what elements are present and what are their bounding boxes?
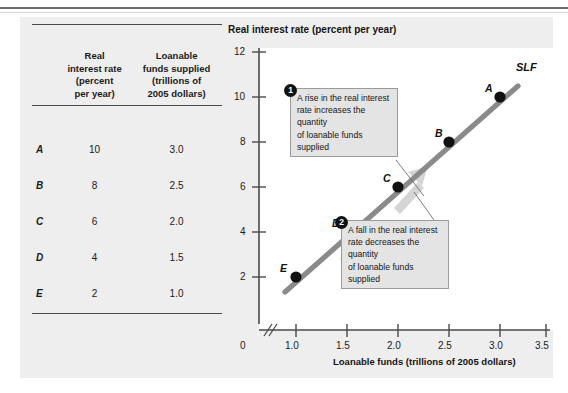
row-key: B <box>32 167 58 203</box>
row-rate: 2 <box>58 275 131 313</box>
annotation-2-line-1: A fall in the real interest <box>348 224 444 236</box>
table-row: A 10 3.0 <box>32 131 222 167</box>
table-header-real-interest-rate: Realinterest rate(percentper year) <box>58 50 131 106</box>
annotation-callout-1: A rise in the real interest rate increas… <box>290 88 398 157</box>
table-row: C 6 2.0 <box>32 203 222 239</box>
row-key: C <box>32 203 58 239</box>
x-tick-label-3-5: 3.5 <box>535 340 549 351</box>
x-tick-label-3-0: 3.0 <box>489 340 503 351</box>
y-tick-label-12: 12 <box>234 46 245 57</box>
row-funds: 1.5 <box>131 239 222 275</box>
row-rate: 4 <box>58 239 131 275</box>
y-tick-label-10: 10 <box>234 91 245 102</box>
chart-svg <box>228 24 553 374</box>
point-label-b: B <box>435 127 443 139</box>
data-point-b <box>443 136 454 147</box>
table-header-row: Realinterest rate(percentper year) Loana… <box>32 50 222 106</box>
row-rate: 6 <box>58 203 131 239</box>
data-point-a <box>494 91 505 102</box>
row-rate: 10 <box>58 131 131 167</box>
y-tick-label-6: 6 <box>240 181 246 192</box>
row-key: D <box>32 239 58 275</box>
x-tick-label-2-5: 2.5 <box>438 340 452 351</box>
row-funds: 1.0 <box>131 275 222 313</box>
data-point-c <box>392 181 403 192</box>
annotation-1-number-badge: 1 <box>284 84 297 97</box>
point-label-c: C <box>383 172 391 184</box>
table-header-rule <box>32 106 222 132</box>
row-funds: 2.5 <box>131 167 222 203</box>
y-tick-label-8: 8 <box>240 136 246 147</box>
point-label-e: E <box>280 262 287 274</box>
point-label-a: A <box>485 82 493 94</box>
data-table-container: Realinterest rate(percentper year) Loana… <box>32 24 222 339</box>
loanable-funds-table: Realinterest rate(percentper year) Loana… <box>32 24 222 339</box>
x-axis-title: Loanable funds (trillions of 2005 dollar… <box>333 356 516 367</box>
table-row: E 2 1.0 <box>32 275 222 313</box>
chart-container: Real interest rate (percent per year) <box>228 24 553 374</box>
origin-label: 0 <box>240 340 246 351</box>
row-key: E <box>32 275 58 313</box>
page-top-rule-thin <box>0 12 568 13</box>
x-tick-label-1-5: 1.5 <box>336 340 350 351</box>
row-funds: 3.0 <box>131 131 222 167</box>
row-key: A <box>32 131 58 167</box>
annotation-callout-2: A fall in the real interest rate decreas… <box>341 220 449 289</box>
table-header-rowkey <box>32 50 58 106</box>
annotation-2-line-2: rate decreases the quantity <box>348 236 444 260</box>
table-header-loanable-funds: Loanablefunds supplied(trillions of2005 … <box>131 50 222 106</box>
data-point-e <box>290 271 301 282</box>
figure-root: Realinterest rate(percentper year) Loana… <box>0 0 568 393</box>
x-tick-label-2-0: 2.0 <box>387 340 401 351</box>
annotation-1-line-2: rate increases the quantity <box>297 104 393 128</box>
annotation-2-number-badge: 2 <box>335 216 348 229</box>
y-tick-label-2: 2 <box>240 271 246 282</box>
page-top-rule <box>0 7 568 9</box>
annotation-1-line-1: A rise in the real interest <box>297 92 393 104</box>
table-bottom-rule <box>32 313 222 339</box>
table-row: B 8 2.5 <box>32 167 222 203</box>
slf-curve-label: SLF <box>516 61 537 73</box>
table-row: D 4 1.5 <box>32 239 222 275</box>
annotation-1-line-3: of loanable funds supplied <box>297 129 393 153</box>
y-tick-label-4: 4 <box>240 226 246 237</box>
row-funds: 2.0 <box>131 203 222 239</box>
row-rate: 8 <box>58 167 131 203</box>
x-tick-label-1-0: 1.0 <box>285 340 299 351</box>
table-top-rule <box>32 25 222 51</box>
annotation-2-line-3: of loanable funds supplied <box>348 261 444 285</box>
